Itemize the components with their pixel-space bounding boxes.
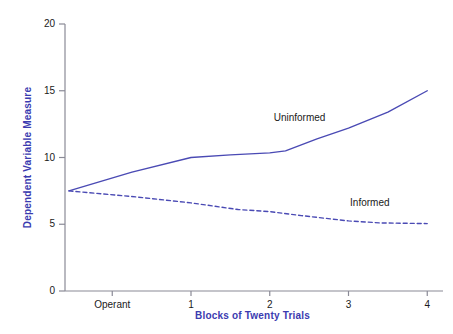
series-line-uninformed	[69, 91, 427, 191]
x-tick-marks	[112, 291, 427, 296]
y-tick-label: 15	[25, 86, 55, 96]
x-tick-label: 1	[188, 300, 194, 310]
series-label-informed: Informed	[350, 197, 389, 208]
x-tick-label: Operant	[94, 300, 130, 310]
axes-group	[65, 24, 443, 291]
series-label-uninformed: Uninformed	[274, 112, 326, 123]
x-tick-label: 4	[424, 300, 430, 310]
y-tick-label: 10	[25, 153, 55, 163]
y-tick-label: 20	[25, 19, 55, 29]
y-tick-label: 5	[25, 219, 55, 229]
x-axis-title: Blocks of Twenty Trials	[65, 310, 440, 321]
y-tick-label: 0	[25, 286, 55, 296]
plot-area	[0, 0, 453, 334]
chart-container: Dependent Variable Measure Blocks of Twe…	[0, 0, 453, 334]
x-tick-label: 2	[267, 300, 273, 310]
x-tick-label: 3	[346, 300, 352, 310]
y-tick-marks	[59, 24, 65, 291]
